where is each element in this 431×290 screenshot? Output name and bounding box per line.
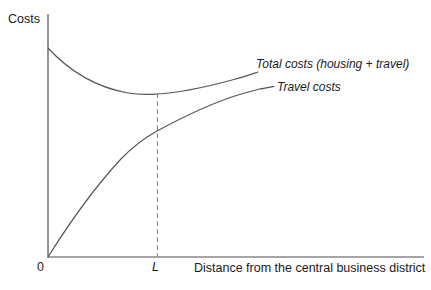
travel-costs-leader-line: [261, 86, 274, 88]
series-label-total-costs: Total costs (housing + travel): [256, 58, 409, 70]
chart-canvas: [0, 0, 431, 290]
total-costs-curve: [48, 48, 258, 94]
y-axis-title: Costs: [8, 13, 40, 26]
x-axis-title: Distance from the central business distr…: [194, 262, 425, 275]
cost-distance-chart: Costs 0 L Distance from the central busi…: [0, 0, 431, 290]
travel-costs-curve: [48, 89, 262, 258]
origin-label: 0: [37, 261, 44, 274]
x-tick-label-l: L: [152, 261, 159, 274]
series-label-travel-costs: Travel costs: [277, 81, 341, 93]
